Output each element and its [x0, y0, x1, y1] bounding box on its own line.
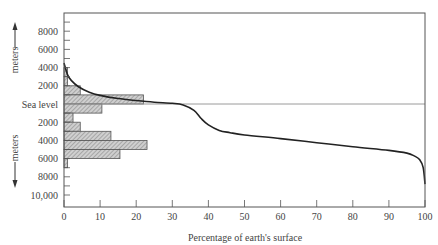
x-tick-label: 40	[203, 211, 213, 222]
x-tick-label: 80	[348, 211, 358, 222]
histogram-bar	[64, 77, 68, 86]
plot-frame	[64, 13, 425, 207]
x-axis-ticks: 0102030405060708090100	[62, 200, 433, 222]
y-axis-title-bottom: meters	[9, 135, 20, 188]
y-tick-label: 6000	[38, 153, 58, 164]
x-tick-label: 50	[240, 211, 250, 222]
y-tick-label: 2000	[38, 80, 58, 91]
arrow-down-head-icon	[13, 180, 18, 188]
arrow-up-head-icon	[13, 22, 18, 30]
x-tick-label: 10	[95, 211, 105, 222]
y-label-sea-level: Sea level	[22, 99, 59, 110]
x-tick-label: 20	[131, 211, 141, 222]
histogram-bar	[64, 159, 68, 168]
y-tick-label: 8000	[38, 26, 58, 37]
y-tick-label: 6000	[38, 44, 58, 55]
x-tick-label: 30	[167, 211, 177, 222]
y-tick-label: 4000	[38, 135, 58, 146]
y-tick-label: 4000	[38, 62, 58, 73]
svg-text:meters: meters	[9, 47, 20, 74]
y-tick-label: 2000	[38, 117, 58, 128]
histogram-bar	[64, 113, 73, 122]
x-tick-label: 0	[62, 211, 67, 222]
y-tick-label: 8000	[38, 171, 58, 182]
hypsometric-curve	[64, 63, 425, 184]
histogram-bar	[64, 150, 120, 159]
x-axis-title: Percentage of earth's surface	[188, 232, 303, 243]
histogram-bar	[64, 122, 80, 131]
histogram-bar	[64, 140, 147, 149]
y-axis-title-top: meters	[9, 22, 20, 73]
hypsometric-chart: 8000600040002000200040006000800010,000 0…	[0, 0, 438, 245]
histogram-bars	[64, 68, 147, 168]
histogram-bar	[64, 104, 102, 113]
histogram-bar	[64, 131, 111, 140]
x-tick-label: 100	[418, 211, 433, 222]
svg-text:meters: meters	[9, 135, 20, 162]
x-tick-label: 60	[276, 211, 286, 222]
x-tick-label: 90	[384, 211, 394, 222]
y-tick-label: 10,000	[31, 190, 59, 201]
x-tick-label: 70	[312, 211, 322, 222]
